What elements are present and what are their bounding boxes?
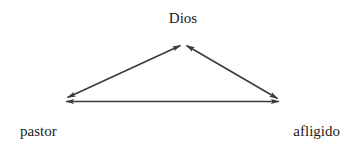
edge-pastor-dios — [68, 46, 181, 98]
triangle-diagram: Dios pastor afligido — [0, 0, 356, 153]
node-label-pastor: pastor — [20, 124, 57, 139]
node-label-dios-text: Dios — [169, 10, 197, 26]
node-label-dios: Dios — [0, 11, 356, 26]
edge-dios-afligido — [187, 46, 278, 99]
node-label-afligido: afligido — [293, 124, 340, 139]
